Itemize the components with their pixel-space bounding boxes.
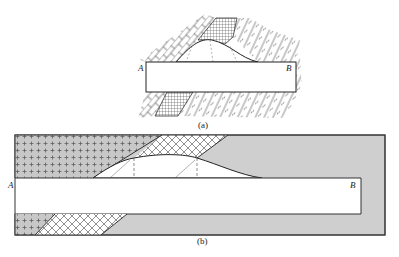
label-b-left: A <box>8 180 14 190</box>
tunnel-b <box>14 178 361 214</box>
label-b-right: B <box>350 180 356 190</box>
label-a-left: A <box>138 63 144 73</box>
caption-b: (b) <box>197 236 208 246</box>
label-a-right: B <box>286 63 292 73</box>
caption-a: (a) <box>198 120 208 130</box>
schist-rock-right <box>296 58 302 92</box>
tunnel-a <box>146 62 296 92</box>
schist-rock-lower <box>178 92 300 118</box>
figure-b <box>14 135 385 235</box>
figure-a <box>138 14 302 118</box>
